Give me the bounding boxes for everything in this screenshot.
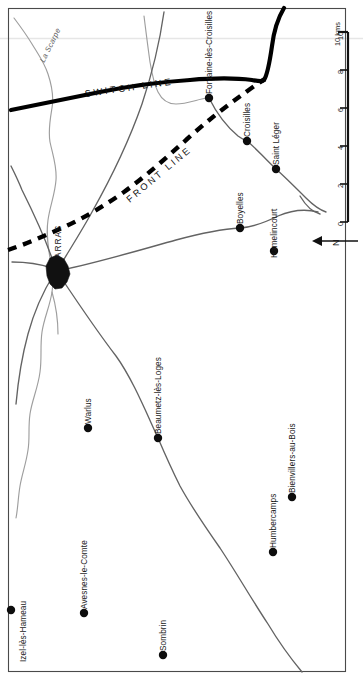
dot-beaumetz-les-loges	[154, 434, 162, 442]
dot-hamelincourt	[270, 247, 278, 255]
map-container: La Scarpe SWITCH LINE FRONT LINE ARRAS F…	[0, 0, 363, 686]
dot-croisilles	[243, 137, 251, 145]
dot-boyelles	[236, 224, 244, 232]
dot-sombrin	[159, 651, 167, 659]
dot-saint-leger	[272, 165, 280, 173]
dot-fontaine-les-croisilles	[205, 94, 213, 102]
map-canvas	[0, 0, 363, 686]
dot-avesnes-le-comte	[80, 609, 88, 617]
dot-humbercamps	[269, 548, 277, 556]
dot-bienvillers-au-bois	[288, 493, 296, 501]
dot-izel-les-hameau	[7, 606, 15, 614]
dot-warlus	[84, 424, 92, 432]
